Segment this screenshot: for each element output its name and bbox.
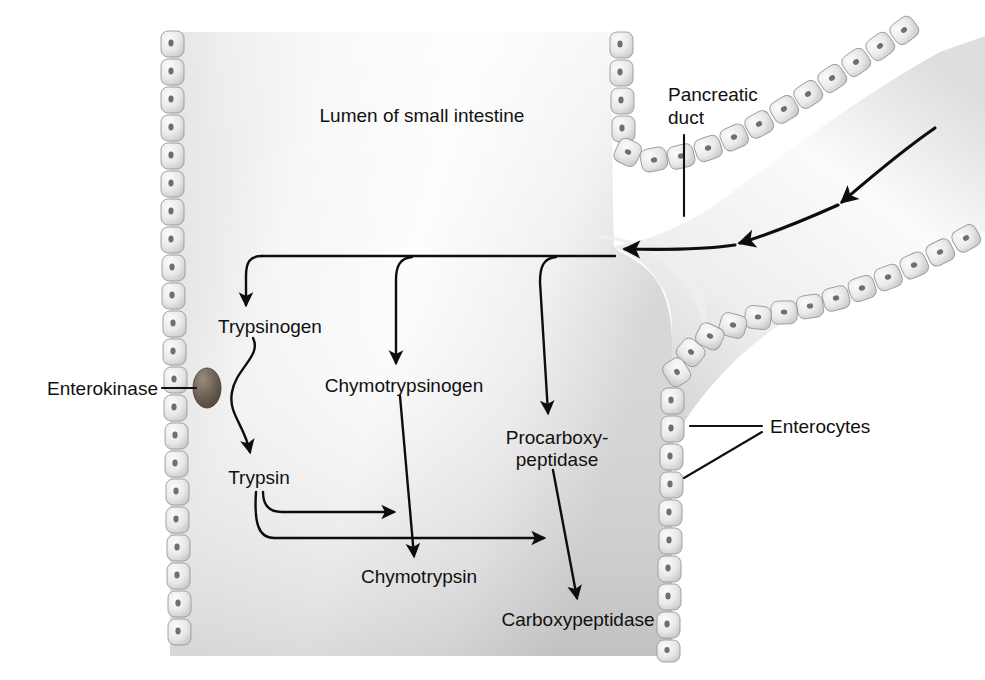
enterocyte-cell bbox=[692, 133, 724, 163]
label-enterocytes: Enterocytes bbox=[770, 416, 870, 437]
enterocyte-cell bbox=[161, 59, 184, 85]
enterocyte-cell bbox=[163, 311, 186, 337]
enterocyte-cell bbox=[659, 528, 682, 554]
enterocytes-duct-left-wall bbox=[610, 32, 644, 169]
label-lumen: Lumen of small intestine bbox=[320, 105, 525, 126]
enterokinase-granule bbox=[193, 368, 221, 408]
enterocyte-cell bbox=[660, 472, 683, 498]
enterocyte-cell bbox=[165, 451, 188, 477]
enterocyte-cell bbox=[744, 305, 772, 331]
enterocyte-cell bbox=[161, 171, 184, 197]
label-trypsinogen: Trypsinogen bbox=[218, 316, 322, 337]
label-chymotrypsinogen: Chymotrypsinogen bbox=[325, 375, 483, 396]
enterocyte-cell bbox=[612, 116, 635, 142]
enterocyte-cell bbox=[161, 143, 184, 169]
enterocyte-cell bbox=[658, 584, 681, 610]
label-chymotrypsin: Chymotrypsin bbox=[361, 566, 477, 587]
enterocyte-cell bbox=[611, 88, 634, 114]
enterocyte-cell bbox=[161, 87, 184, 113]
enterocyte-cell bbox=[168, 591, 191, 617]
enterocyte-cell bbox=[660, 444, 683, 470]
enterocyte-cell bbox=[661, 416, 684, 442]
label-pancreatic-duct-line1: Pancreatic bbox=[668, 84, 758, 105]
enterocyte-cell bbox=[666, 142, 697, 171]
enterocyte-cell bbox=[610, 32, 633, 58]
label-pancreatic-duct-line2: duct bbox=[668, 107, 705, 128]
enterocyte-cell bbox=[661, 388, 684, 414]
enterocyte-cell bbox=[658, 556, 681, 582]
enterocyte-cell bbox=[659, 500, 682, 526]
tissue-shapes bbox=[170, 32, 985, 656]
enterocyte-cell bbox=[166, 479, 189, 505]
enterocyte-cell bbox=[167, 563, 190, 589]
label-trypsin: Trypsin bbox=[228, 467, 290, 488]
enterocyte-cell bbox=[657, 640, 680, 662]
enterocyte-cell bbox=[166, 507, 189, 533]
enterocyte-cell bbox=[795, 293, 824, 320]
enterocyte-cell bbox=[167, 535, 190, 561]
leader-enterocytes-lower bbox=[684, 432, 762, 478]
enterocyte-cell bbox=[162, 283, 185, 309]
label-procarboxypeptidase-line1: Procarboxy- bbox=[506, 427, 608, 448]
enterocyte-cell bbox=[639, 146, 669, 174]
enterocyte-cell bbox=[164, 367, 187, 393]
enterocyte-cell bbox=[168, 619, 191, 645]
enterocyte-cell bbox=[657, 612, 680, 638]
label-procarboxypeptidase-line2: peptidase bbox=[516, 449, 598, 470]
enterocyte-cell bbox=[161, 31, 184, 57]
enterocyte-cell bbox=[163, 339, 186, 365]
label-carboxypeptidase: Carboxypeptidase bbox=[501, 609, 654, 630]
enterocyte-cell bbox=[165, 423, 188, 449]
diagram-canvas: Lumen of small intestine Pancreatic duct… bbox=[0, 0, 985, 680]
enterocyte-cell bbox=[164, 395, 187, 421]
enterocyte-cell bbox=[161, 199, 184, 225]
enterocyte-cell bbox=[162, 255, 185, 281]
enterocyte-cell bbox=[161, 115, 184, 141]
zymogen-activation-figure: Lumen of small intestine Pancreatic duct… bbox=[0, 0, 985, 680]
enterocyte-cell bbox=[771, 301, 798, 325]
enterocyte-cell bbox=[161, 227, 184, 253]
label-enterokinase: Enterokinase bbox=[47, 378, 158, 399]
enterocyte-cell bbox=[610, 60, 633, 86]
